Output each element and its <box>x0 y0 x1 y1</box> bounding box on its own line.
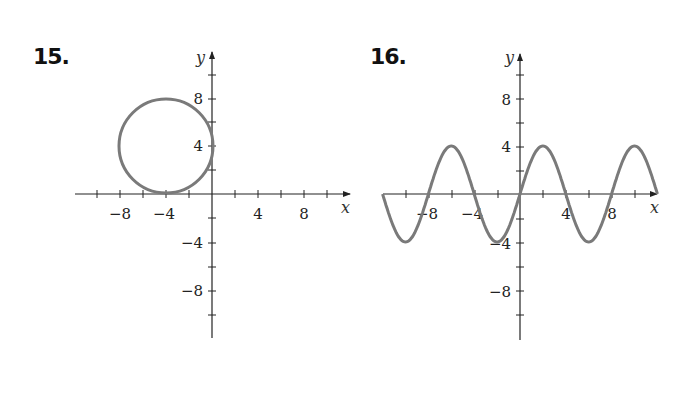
graph-16: −8 −4 4 8 8 4 −4 −8 x y <box>383 48 659 340</box>
x-tick-label: 4 <box>253 205 263 223</box>
graph-15: −8 −4 4 8 8 4 −4 −8 x y <box>75 48 350 338</box>
y-axis-label: y <box>504 48 515 67</box>
y-axis-label: y <box>195 48 206 67</box>
y-tick-label: −8 <box>489 283 511 301</box>
y-tick-label: 8 <box>501 91 511 109</box>
y-tick-label: 4 <box>193 137 203 155</box>
x-tick-label: −4 <box>153 205 175 223</box>
graphs-canvas: −8 −4 4 8 8 4 −4 −8 x y <box>0 0 694 413</box>
x-tick-label: −8 <box>109 205 131 223</box>
x-axis-label: x <box>341 198 350 217</box>
y-tick-label: −4 <box>181 234 203 252</box>
y-tick-label: −8 <box>181 282 203 300</box>
y-tick-label: 8 <box>193 90 203 108</box>
y-tick-label: 4 <box>501 138 511 156</box>
x-tick-label: 8 <box>299 205 309 223</box>
x-axis-label: x <box>650 198 659 217</box>
